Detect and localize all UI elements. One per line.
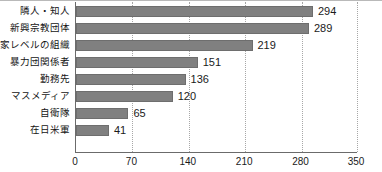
plot-area: 294 289 219 151 136 120 (75, 2, 357, 153)
category-label: 暴力団関係者 (10, 53, 70, 70)
bar-value-label: 65 (133, 106, 145, 121)
xtick-label: 0 (72, 156, 78, 167)
bar-value-label: 219 (258, 38, 276, 53)
category-label: 国家レベルの組織 (0, 36, 70, 53)
bar-row: 41 (76, 122, 357, 139)
category-label: 在日米軍 (30, 121, 70, 138)
bar-value-label: 120 (178, 89, 196, 104)
xtick-label: 140 (179, 156, 196, 167)
xtick-label: 280 (292, 156, 309, 167)
category-label: 勤務先 (40, 70, 70, 87)
bar-value-label: 151 (203, 55, 221, 70)
bar-value-label: 294 (318, 4, 336, 19)
category-axis-labels: 隣人・知人 新興宗教団体 国家レベルの組織 暴力団関係者 勤務先 マスメディア … (0, 2, 72, 153)
bar-row: 65 (76, 105, 357, 122)
bar-chart: 隣人・知人 新興宗教団体 国家レベルの組織 暴力団関係者 勤務先 マスメディア … (0, 0, 382, 172)
bar (76, 6, 313, 17)
value-axis-labels: 0 70 140 210 280 350 (75, 154, 357, 170)
bar-row: 289 (76, 20, 357, 37)
category-label: 隣人・知人 (20, 2, 70, 19)
bar-value-label: 41 (114, 123, 126, 138)
bar-row: 294 (76, 3, 357, 20)
category-label: マスメディア (11, 87, 70, 104)
bar-row: 136 (76, 71, 357, 88)
bar-row: 219 (76, 37, 357, 54)
bar-row: 151 (76, 54, 357, 71)
bar (76, 91, 173, 102)
category-label: 新興宗教団体 (10, 19, 70, 36)
bar-rows: 294 289 219 151 136 120 (76, 2, 357, 152)
bar (76, 23, 309, 34)
bar-row: 120 (76, 88, 357, 105)
bar (76, 74, 186, 85)
xtick-label: 350 (348, 156, 365, 167)
bar-value-label: 289 (314, 21, 332, 36)
xtick-label: 210 (236, 156, 253, 167)
bar (76, 40, 253, 51)
top-border-line (0, 0, 382, 1)
xtick-label: 70 (126, 156, 137, 167)
category-label: 自衛隊 (40, 104, 70, 121)
bar (76, 125, 109, 136)
bar (76, 57, 198, 68)
bar-value-label: 136 (191, 72, 209, 87)
bar (76, 108, 128, 119)
gridline-350 (357, 2, 358, 152)
